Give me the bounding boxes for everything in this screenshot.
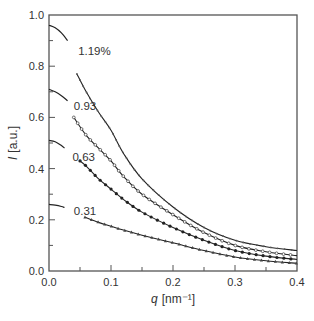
x-tick-label: 0.1 (103, 276, 118, 288)
series-labels: 1.19%0.930.630.31 (73, 45, 111, 217)
y-tick-label: 0.2 (29, 214, 44, 226)
series-label: 1.19% (78, 45, 111, 57)
y-tick-label: 0.8 (29, 60, 44, 72)
series-label: 0.93 (74, 100, 96, 112)
series-1-19- (49, 25, 297, 251)
chart: 0.00.10.20.30.40.00.20.40.60.81.0 1.19%0… (0, 0, 314, 321)
y-tick-label: 0.4 (29, 163, 44, 175)
y-tick-label: 0.0 (29, 265, 44, 277)
x-tick-label: 0.0 (41, 276, 56, 288)
x-axis-label: q[nm⁻¹] (151, 292, 195, 306)
data-series (49, 25, 298, 264)
y-tick-label: 0.6 (29, 111, 44, 123)
y-axis-label: I[a.u.] (6, 126, 20, 160)
x-tick-label: 0.4 (289, 276, 304, 288)
series-0-93 (49, 89, 297, 256)
series-label: 0.31 (74, 205, 96, 217)
y-tick-label: 1.0 (29, 9, 44, 21)
x-tick-label: 0.3 (227, 276, 242, 288)
x-tick-label: 0.2 (165, 276, 180, 288)
series-label: 0.63 (73, 151, 95, 163)
